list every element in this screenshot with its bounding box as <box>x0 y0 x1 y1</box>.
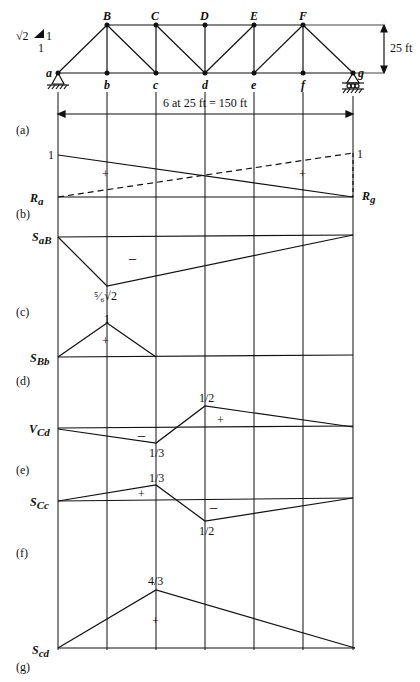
slope-sqrt2: √2 <box>16 29 29 43</box>
slope-vertical: 1 <box>46 29 52 43</box>
rg-label: R <box>361 189 370 203</box>
node-label-f: f <box>301 78 306 92</box>
svg-text:SaB: SaB <box>32 230 52 246</box>
tag-b: (b) <box>16 207 30 221</box>
influence-line-Scd <box>58 590 355 648</box>
vCd-pos-value: 1/2 <box>199 391 214 405</box>
tag-c: (c) <box>16 305 29 319</box>
truss-influence-line-diagram: B C D E F a b c d e f g √2 1 1 25 ft 6 a… <box>0 0 420 682</box>
sign-minus-sCc: − <box>209 500 218 517</box>
sCc-sub: Cc <box>37 499 49 511</box>
sign-minus-vCd: − <box>137 428 146 445</box>
sign-plus-ra: + <box>102 167 109 181</box>
sign-plus-sBb: + <box>102 334 109 348</box>
sign-plus-scd: + <box>152 614 159 628</box>
svg-text:Ra: Ra <box>29 191 44 207</box>
node-label-b: b <box>104 78 110 92</box>
sign-plus-vCd: + <box>217 413 224 427</box>
truss <box>58 25 383 73</box>
tag-d: (d) <box>16 374 30 388</box>
svg-text:Rg: Rg <box>361 189 376 205</box>
ra-value: 1 <box>48 148 54 162</box>
rg-value: 1 <box>357 147 363 161</box>
node-label-E: E <box>249 9 258 23</box>
tag-f: (f) <box>16 546 28 560</box>
node-label-B: B <box>102 9 111 23</box>
saB-sub: aB <box>39 234 52 246</box>
scd-sub: cd <box>39 647 50 659</box>
svg-text:Scd: Scd <box>32 643 50 659</box>
height-label: 25 ft <box>390 41 413 55</box>
node-label-c: c <box>153 78 159 92</box>
tag-a: (a) <box>16 123 29 137</box>
slope-triangle-icon <box>34 29 44 38</box>
vCd-neg-value: 1/3 <box>149 446 164 460</box>
svg-text:VCd: VCd <box>29 422 50 438</box>
rg-sub: g <box>369 193 376 205</box>
scd-peak-value: 4/3 <box>148 574 163 588</box>
tag-g: (g) <box>16 660 30 674</box>
height-dimension <box>381 25 387 73</box>
ra-sub: a <box>38 195 44 207</box>
sign-minus-saB: − <box>128 251 137 268</box>
sBb-sub: Bb <box>36 355 50 367</box>
sign-plus-sCc: + <box>138 487 145 501</box>
ra-label: R <box>29 191 38 205</box>
node-label-D: D <box>199 9 209 23</box>
node-label-a: a <box>46 66 52 80</box>
sCc-neg-value: 1/2 <box>199 524 214 538</box>
sign-plus-rg: + <box>299 167 306 181</box>
node-label-g: g <box>357 66 364 80</box>
slope-horizontal: 1 <box>38 41 44 55</box>
saB-peak-value: ⁵⁄₆√2 <box>94 289 117 303</box>
tag-e: (e) <box>16 463 29 477</box>
node-label-C: C <box>151 9 160 23</box>
node-label-d: d <box>202 78 209 92</box>
svg-text:SBb: SBb <box>30 351 50 367</box>
sCc-pos-value: 1/3 <box>149 471 164 485</box>
sBb-peak-value: 1 <box>104 312 110 326</box>
svg-text:SCc: SCc <box>30 495 49 511</box>
span-label: 6 at 25 ft = 150 ft <box>163 96 248 110</box>
node-label-F: F <box>298 9 307 23</box>
node-label-e: e <box>251 78 257 92</box>
vCd-sub: Cd <box>37 426 50 438</box>
